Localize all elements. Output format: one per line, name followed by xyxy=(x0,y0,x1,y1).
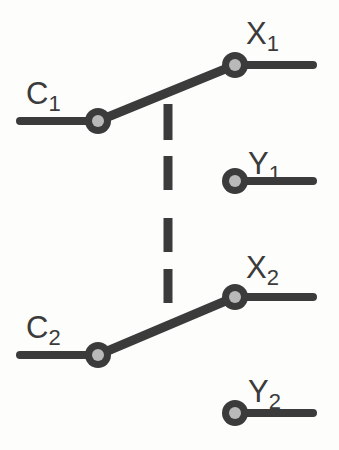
label-base-x2: X xyxy=(246,250,267,285)
label-sub-y2: 2 xyxy=(269,389,281,414)
terminal-label-x1: X1 xyxy=(246,18,279,55)
label-base-c1: C xyxy=(26,76,48,111)
terminal-node-x1 xyxy=(222,52,248,78)
label-sub-c2: 2 xyxy=(48,325,60,350)
terminal-label-c1: C1 xyxy=(26,78,61,115)
relay-contact-diagram: C1 X1 Y1 C2 X2 Y2 xyxy=(0,0,339,450)
terminal-label-y1: Y1 xyxy=(248,148,281,185)
terminal-node-y2 xyxy=(222,400,248,426)
label-sub-x1: 1 xyxy=(267,31,279,56)
label-sub-c1: 1 xyxy=(48,91,60,116)
terminal-label-y2: Y2 xyxy=(248,376,281,413)
terminal-node-x2 xyxy=(222,284,248,310)
label-sub-y1: 1 xyxy=(269,161,281,186)
terminal-node-y1 xyxy=(222,168,248,194)
label-sub-x2: 2 xyxy=(267,265,279,290)
terminal-node-c2 xyxy=(85,342,111,368)
label-base-c2: C xyxy=(26,310,48,345)
terminal-label-c2: C2 xyxy=(26,312,61,349)
schematic-canvas xyxy=(0,0,339,450)
label-base-y1: Y xyxy=(248,146,269,181)
label-base-x1: X xyxy=(246,16,267,51)
switch-blade-2 xyxy=(98,297,235,355)
label-base-y2: Y xyxy=(248,374,269,409)
terminal-label-x2: X2 xyxy=(246,252,279,289)
terminal-node-c1 xyxy=(85,108,111,134)
